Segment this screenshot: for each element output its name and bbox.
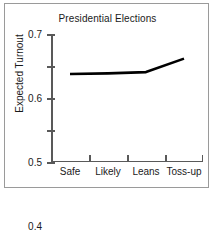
y-tick-label: 0.5 (28, 157, 42, 168)
chart-figure: Presidential Elections Expected Turnout … (4, 3, 209, 188)
plot-area: 0.30.40.50.60.7 SafeLikelyLeansToss-up (51, 34, 203, 162)
y-axis-label: Expected Turnout (14, 19, 25, 129)
y-tick-label: 0.7 (28, 29, 42, 40)
x-tick-label: Safe (60, 166, 81, 177)
data-line-series (51, 34, 203, 162)
x-tick-label: Likely (95, 166, 121, 177)
y-tick: 0.3 (47, 162, 55, 164)
x-tick-label: Toss-up (166, 166, 201, 177)
y-tick-label: 0.6 (28, 93, 42, 104)
chart-title: Presidential Elections (5, 13, 210, 24)
x-tick-label: Leans (132, 166, 159, 177)
